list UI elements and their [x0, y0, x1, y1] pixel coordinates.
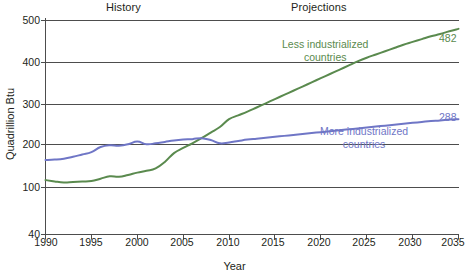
x-tick-2005: 2005	[170, 236, 193, 248]
y-tick-marks	[41, 21, 46, 235]
y-tick-100: 100	[0, 182, 40, 193]
series-label-line-2: countries	[282, 51, 368, 64]
y-tick-200: 200	[0, 139, 40, 150]
x-axis-tick-labels: 1990 1995 2000 2005 2010 2015 2020 2025 …	[0, 236, 469, 256]
x-tick-2030: 2030	[398, 236, 421, 248]
end-value-more-industrialized: 288	[439, 111, 457, 123]
series-label-less-industrialized: Less industrialized countries	[282, 38, 368, 64]
x-tick-2015: 2015	[261, 236, 284, 248]
y-tick-400: 400	[0, 57, 40, 68]
y-tick-500: 500	[0, 15, 40, 26]
x-tick-1990: 1990	[34, 236, 57, 248]
gridlines	[45, 21, 459, 188]
y-tick-300: 300	[0, 99, 40, 110]
series-label-line-1: More industrialized	[320, 125, 408, 138]
series-line-less-industrialized	[46, 29, 459, 183]
history-band-label: History	[106, 1, 141, 13]
series-label-more-industrialized: More industrialized countries	[320, 125, 408, 151]
x-tick-2010: 2010	[216, 236, 239, 248]
x-tick-2000: 2000	[125, 236, 148, 248]
end-value-less-industrialized: 482	[439, 32, 457, 44]
series-label-line-2: countries	[320, 138, 408, 151]
energy-consumption-line-chart: History Projections Quadrillion Btu Year…	[0, 0, 469, 277]
x-tick-2025: 2025	[352, 236, 375, 248]
x-axis-title: Year	[0, 260, 469, 272]
projections-band-label: Projections	[291, 1, 347, 13]
x-tick-1995: 1995	[79, 236, 102, 248]
series-label-line-1: Less industrialized	[282, 38, 368, 51]
x-tick-2020: 2020	[307, 236, 330, 248]
x-tick-2035: 2035	[441, 236, 464, 248]
